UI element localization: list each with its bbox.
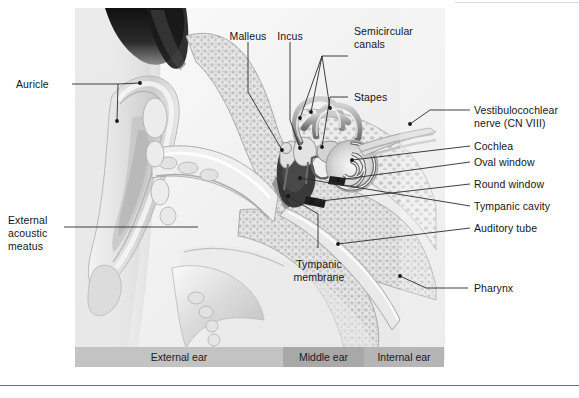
- label-external-acoustic-meatus-line3: meatus: [8, 240, 43, 253]
- label-incus: Incus: [265, 30, 315, 43]
- label-external-acoustic-meatus-line1: External: [8, 214, 47, 227]
- label-external-acoustic-meatus-line2: acoustic: [8, 227, 47, 240]
- label-tympanic-cavity: Tympanic cavity: [474, 200, 550, 213]
- label-vestibulocochlear-nerve-line2: nerve (CN VIII): [474, 117, 546, 130]
- label-round-window: Round window: [474, 178, 544, 191]
- label-auditory-tube: Auditory tube: [474, 222, 537, 235]
- region-label-external-ear: External ear: [75, 351, 283, 363]
- bottom-divider-rule: [0, 385, 579, 386]
- label-auricle: Auricle: [16, 78, 49, 91]
- label-stapes: Stapes: [354, 91, 387, 104]
- ear-illustration: [0, 0, 579, 398]
- label-tympanic-membrane-line1: Tympanic: [290, 258, 348, 271]
- label-pharynx: Pharynx: [474, 282, 513, 295]
- label-vestibulocochlear-nerve-line1: Vestibulocochlear: [474, 104, 558, 117]
- ear-anatomy-figure: Auricle External acoustic meatus Malleus…: [0, 0, 579, 398]
- region-label-middle-ear: Middle ear: [283, 351, 364, 363]
- label-semicircular-canals-line1: Semicircular: [354, 25, 413, 38]
- region-label-internal-ear: Internal ear: [364, 351, 444, 363]
- label-tympanic-membrane-line2: membrane: [290, 271, 348, 284]
- label-oval-window: Oval window: [474, 156, 535, 169]
- label-cochlea: Cochlea: [474, 140, 513, 153]
- label-semicircular-canals-line2: canals: [354, 38, 385, 51]
